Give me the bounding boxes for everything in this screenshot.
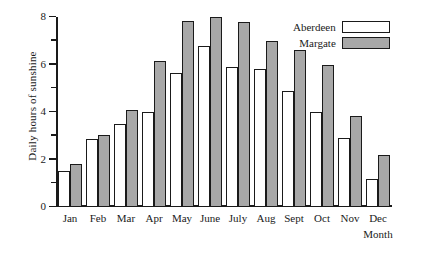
bar-margate-mar xyxy=(126,110,138,207)
sunshine-bar-chart: Daily hours of sunshine 02468 JanFebMarA… xyxy=(0,0,432,270)
bar-margate-oct xyxy=(322,65,334,208)
bar-margate-may xyxy=(182,21,194,207)
x-tick-label: Mar xyxy=(117,212,135,224)
bar-group xyxy=(198,17,221,207)
y-axis-title: Daily hours of sunshine xyxy=(26,11,38,201)
y-tick-label: 0 xyxy=(41,201,47,212)
y-tick-label: 6 xyxy=(41,58,47,69)
bar-group xyxy=(170,17,193,207)
x-tick-label: Dec xyxy=(369,212,387,224)
bar-aberdeen-may xyxy=(170,73,182,207)
bar-aberdeen-aug xyxy=(254,69,266,207)
x-tick-label: Sept xyxy=(284,212,304,224)
bar-margate-dec xyxy=(378,155,390,207)
chart-legend: Aberdeen Margate xyxy=(293,20,390,52)
bar-group xyxy=(58,17,81,207)
bar-aberdeen-oct xyxy=(310,112,322,207)
y-tick-major: 2 xyxy=(49,158,56,159)
x-tick-label: June xyxy=(200,212,220,224)
bar-margate-feb xyxy=(98,135,110,207)
bar-aberdeen-jan xyxy=(58,171,70,207)
bar-group xyxy=(254,17,277,207)
bar-aberdeen-july xyxy=(226,67,238,207)
bar-aberdeen-mar xyxy=(114,124,126,207)
x-tick-label: July xyxy=(229,212,247,224)
legend-swatch-margate xyxy=(342,37,390,49)
x-tick-label: Nov xyxy=(341,212,360,224)
bar-group xyxy=(86,17,109,207)
legend-item-aberdeen: Aberdeen xyxy=(293,20,390,33)
bar-group xyxy=(114,17,137,207)
y-tick-major: 0 xyxy=(49,206,56,207)
y-tick-major: 4 xyxy=(49,111,56,112)
legend-item-margate: Margate xyxy=(293,36,390,49)
bar-aberdeen-feb xyxy=(86,139,98,207)
bar-margate-july xyxy=(238,22,250,207)
x-tick-label: May xyxy=(172,212,192,224)
x-tick-label: Jan xyxy=(63,212,78,224)
bar-aberdeen-sept xyxy=(282,91,294,207)
x-tick-label: Apr xyxy=(145,212,162,224)
legend-swatch-aberdeen xyxy=(342,21,390,33)
y-tick-major: 8 xyxy=(49,16,56,17)
x-axis-title: Month xyxy=(363,228,392,240)
legend-label-aberdeen: Aberdeen xyxy=(293,21,336,33)
bar-margate-june xyxy=(210,17,222,207)
y-tick-major: 6 xyxy=(49,63,56,64)
bar-aberdeen-apr xyxy=(142,112,154,207)
bar-group xyxy=(142,17,165,207)
bar-margate-nov xyxy=(350,116,362,207)
bar-aberdeen-nov xyxy=(338,138,350,207)
bar-aberdeen-june xyxy=(198,46,210,208)
bar-margate-sept xyxy=(294,50,306,207)
y-tick-label: 4 xyxy=(41,106,47,117)
bar-margate-apr xyxy=(154,61,166,207)
x-tick-label: Feb xyxy=(90,212,107,224)
x-tick-label: Oct xyxy=(314,212,330,224)
bar-margate-jan xyxy=(70,164,82,207)
legend-label-margate: Margate xyxy=(299,37,335,49)
bar-margate-aug xyxy=(266,41,278,207)
x-tick-label: Aug xyxy=(257,212,276,224)
y-tick-label: 2 xyxy=(41,153,47,164)
bar-group xyxy=(226,17,249,207)
bar-aberdeen-dec xyxy=(366,179,378,208)
y-tick-label: 8 xyxy=(41,11,47,22)
